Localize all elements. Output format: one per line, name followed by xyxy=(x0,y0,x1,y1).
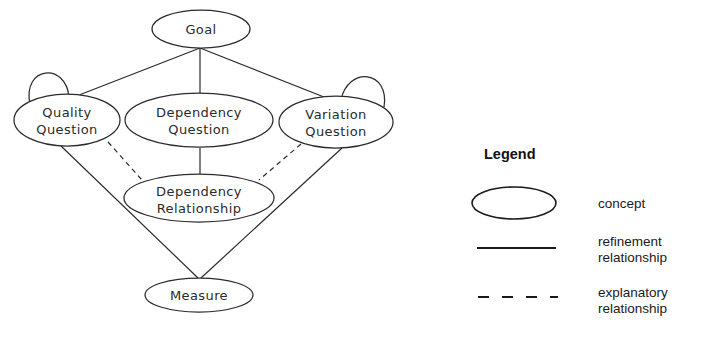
legend-concept-label: concept xyxy=(598,196,646,211)
node-dependency-question-label-line1: Dependency xyxy=(156,105,242,120)
legend-title: Legend xyxy=(484,146,536,162)
node-variation-question-label-line2: Question xyxy=(305,124,366,139)
node-quality-question-ellipse xyxy=(14,94,120,146)
node-quality-question-label-line2: Question xyxy=(36,122,97,137)
legend-refinement-label-line2: relationship xyxy=(598,250,667,265)
gqm-diagram: Goal Quality Question Dependency Questio… xyxy=(0,0,701,338)
node-dependency-question-label-line2: Question xyxy=(168,122,229,137)
node-quality-question-label-line1: Quality xyxy=(42,105,91,120)
edge-goal-to-variation-question xyxy=(200,48,329,99)
node-measure[interactable]: Measure xyxy=(145,278,253,312)
refinement-edges xyxy=(61,48,342,278)
legend-explanatory-label-line1: explanatory xyxy=(598,285,668,300)
node-dependency-question-ellipse xyxy=(125,93,273,147)
edge-quality-question-to-dependency-relationship-dashed xyxy=(108,142,142,180)
node-dependency-relationship-label-line1: Dependency xyxy=(156,184,242,199)
node-variation-question-label-line1: Variation xyxy=(305,107,366,122)
legend-refinement-label-line1: refinement xyxy=(598,234,662,249)
edge-goal-to-quality-question xyxy=(74,48,200,97)
node-dependency-relationship[interactable]: Dependency Relationship xyxy=(124,174,274,222)
legend-concept-ellipse-icon xyxy=(472,187,556,219)
legend-item-refinement-relationship: refinement relationship xyxy=(477,234,667,265)
node-dependency-relationship-label-line2: Relationship xyxy=(157,201,242,216)
node-variation-question-ellipse xyxy=(279,96,393,148)
diagram-canvas: Goal Quality Question Dependency Questio… xyxy=(0,0,701,338)
legend: Legend concept refinement relationship e… xyxy=(472,146,668,316)
legend-item-concept: concept xyxy=(472,187,646,219)
node-measure-label-line1: Measure xyxy=(170,288,228,303)
legend-explanatory-label-line2: relationship xyxy=(598,301,667,316)
edge-variation-question-to-dependency-relationship-dashed xyxy=(259,144,301,180)
node-quality-question[interactable]: Quality Question xyxy=(14,94,120,146)
node-variation-question[interactable]: Variation Question xyxy=(279,96,393,148)
node-goal-label-line1: Goal xyxy=(185,22,216,37)
legend-item-explanatory-relationship: explanatory relationship xyxy=(478,285,668,316)
node-dependency-question[interactable]: Dependency Question xyxy=(125,93,273,147)
diagram-nodes: Goal Quality Question Dependency Questio… xyxy=(14,10,393,312)
node-goal[interactable]: Goal xyxy=(152,10,250,48)
